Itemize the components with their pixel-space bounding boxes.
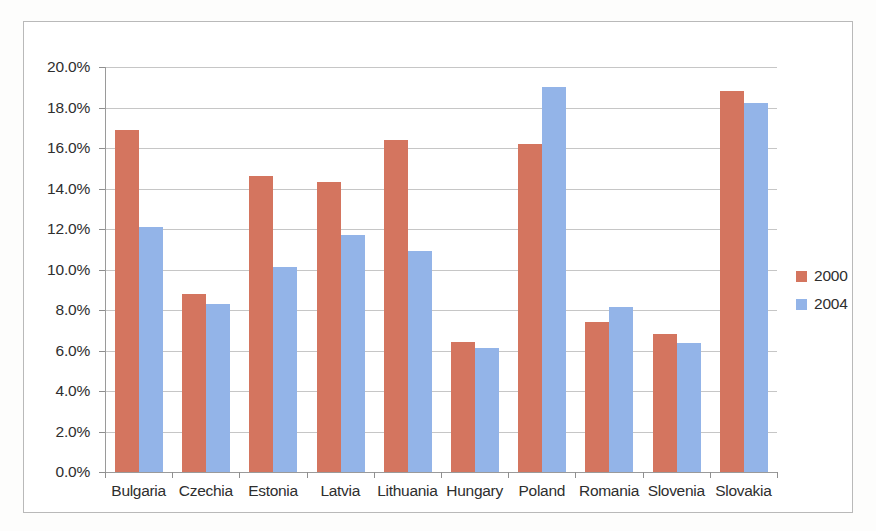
- legend-label: 2004: [814, 295, 848, 313]
- y-axis-tick: 8.0%: [99, 310, 105, 311]
- y-axis-tick-label: 8.0%: [55, 301, 90, 319]
- x-axis-tick: [643, 472, 644, 478]
- bar-2004-latvia[interactable]: [341, 235, 365, 472]
- y-axis-tick: 18.0%: [99, 108, 105, 109]
- x-axis-label-slovakia: Slovakia: [715, 482, 771, 500]
- chart-frame: 0.0%2.0%4.0%6.0%8.0%10.0%12.0%14.0%16.0%…: [23, 21, 853, 513]
- bar-group: [374, 67, 441, 472]
- y-axis-tick-label: 16.0%: [47, 139, 90, 157]
- bar-2004-slovenia[interactable]: [677, 343, 701, 472]
- bar-2000-slovenia[interactable]: [653, 334, 677, 472]
- y-axis-tick: 10.0%: [99, 270, 105, 271]
- bar-2000-latvia[interactable]: [317, 182, 341, 472]
- bar-2000-bulgaria[interactable]: [115, 130, 139, 472]
- x-axis-tick: [441, 472, 442, 478]
- x-axis-label-lithuania: Lithuania: [377, 482, 437, 500]
- x-axis-tick: [105, 472, 106, 478]
- y-axis-tick: 12.0%: [99, 229, 105, 230]
- bar-2004-poland[interactable]: [542, 87, 566, 472]
- x-axis-label-poland: Poland: [519, 482, 565, 500]
- bar-2000-slovakia[interactable]: [720, 91, 744, 472]
- legend-label: 2000: [814, 267, 848, 285]
- y-axis-tick: 20.0%: [99, 67, 105, 68]
- y-axis-tick-label: 6.0%: [55, 342, 90, 360]
- chart-legend: 20002004: [796, 262, 848, 318]
- bar-2000-lithuania[interactable]: [384, 140, 408, 472]
- legend-swatch-icon: [796, 299, 807, 310]
- x-axis-tick: [239, 472, 240, 478]
- bar-group: [508, 67, 575, 472]
- chart-screenshot: 0.0%2.0%4.0%6.0%8.0%10.0%12.0%14.0%16.0%…: [0, 0, 876, 531]
- plot-area: [105, 67, 777, 472]
- x-axis-tick: [307, 472, 308, 478]
- bar-2004-hungary[interactable]: [475, 348, 499, 472]
- y-axis-tick-label: 10.0%: [47, 261, 90, 279]
- bar-2004-czechia[interactable]: [206, 304, 230, 472]
- y-axis-tick-label: 2.0%: [55, 423, 90, 441]
- bar-group: [307, 67, 374, 472]
- bar-2000-hungary[interactable]: [451, 342, 475, 472]
- x-axis-tick: [508, 472, 509, 478]
- bar-2000-romania[interactable]: [585, 322, 609, 472]
- bar-group: [710, 67, 777, 472]
- y-axis-tick-label: 14.0%: [47, 180, 90, 198]
- bar-2004-romania[interactable]: [609, 307, 633, 472]
- x-axis-labels: BulgariaCzechiaEstoniaLatviaLithuaniaHun…: [105, 482, 777, 510]
- legend-item-2000[interactable]: 2000: [796, 262, 848, 290]
- y-axis-tick-label: 18.0%: [47, 99, 90, 117]
- bar-2004-lithuania[interactable]: [408, 251, 432, 472]
- x-axis-tick: [710, 472, 711, 478]
- y-axis-line: 0.0%2.0%4.0%6.0%8.0%10.0%12.0%14.0%16.0%…: [105, 67, 106, 473]
- y-axis-tick: 14.0%: [99, 189, 105, 190]
- bar-2000-poland[interactable]: [518, 144, 542, 472]
- y-axis-tick: 6.0%: [99, 351, 105, 352]
- bar-2000-czechia[interactable]: [182, 294, 206, 472]
- y-axis-tick: 2.0%: [99, 432, 105, 433]
- x-axis-tick: [575, 472, 576, 478]
- x-axis-label-czechia: Czechia: [179, 482, 233, 500]
- bar-group: [239, 67, 306, 472]
- bar-2000-estonia[interactable]: [249, 176, 273, 472]
- y-axis-tick-label: 4.0%: [55, 382, 90, 400]
- bar-group: [105, 67, 172, 472]
- bar-group: [575, 67, 642, 472]
- y-axis-tick: 4.0%: [99, 391, 105, 392]
- x-axis-tick: [374, 472, 375, 478]
- x-axis-label-estonia: Estonia: [248, 482, 298, 500]
- bar-2004-estonia[interactable]: [273, 267, 297, 472]
- bar-group: [441, 67, 508, 472]
- x-axis-label-bulgaria: Bulgaria: [111, 482, 165, 500]
- y-axis-tick: 16.0%: [99, 148, 105, 149]
- y-axis-tick-label: 0.0%: [55, 463, 90, 481]
- x-axis-label-latvia: Latvia: [320, 482, 360, 500]
- legend-swatch-icon: [796, 271, 807, 282]
- bar-group: [643, 67, 710, 472]
- x-axis-label-romania: Romania: [579, 482, 639, 500]
- bar-group: [172, 67, 239, 472]
- bar-2004-slovakia[interactable]: [744, 103, 768, 472]
- x-axis-tick: [777, 472, 778, 478]
- y-axis-tick-label: 12.0%: [47, 220, 90, 238]
- x-axis-label-slovenia: Slovenia: [648, 482, 705, 500]
- x-axis-label-hungary: Hungary: [446, 482, 503, 500]
- y-axis-tick-label: 20.0%: [47, 58, 90, 76]
- bar-groups: [105, 67, 777, 472]
- x-axis-tick: [172, 472, 173, 478]
- legend-item-2004[interactable]: 2004: [796, 290, 848, 318]
- bar-2004-bulgaria[interactable]: [139, 227, 163, 472]
